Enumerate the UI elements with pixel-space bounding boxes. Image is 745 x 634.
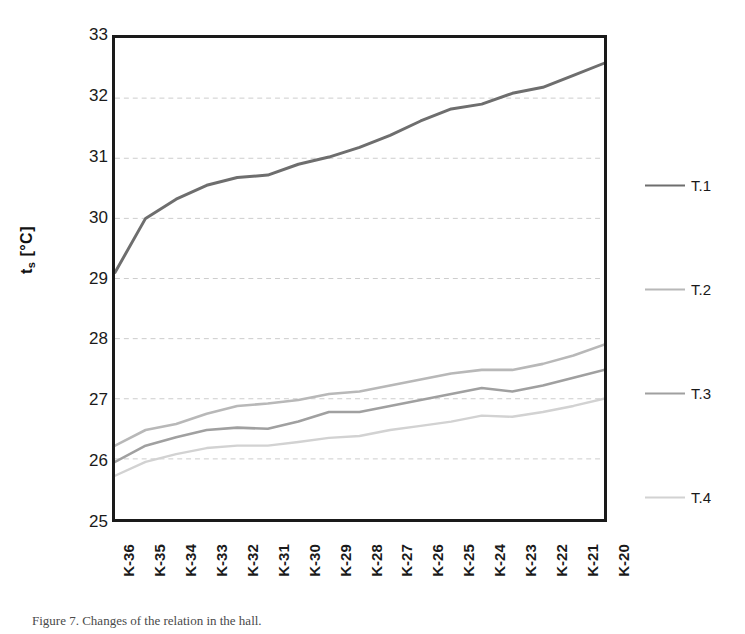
figure-caption: Figure 7. Changes of the relation in the… — [32, 612, 722, 630]
x-axis-tick-label: K-21 — [584, 544, 601, 577]
y-axis-title-main: t — [18, 268, 35, 274]
x-axis-tick-label: K-23 — [522, 544, 539, 577]
y-axis-tick-label: 29 — [89, 269, 108, 289]
legend-entry-t-2[interactable]: T.2 — [645, 281, 711, 298]
plot-area — [112, 35, 607, 522]
y-axis-tick-labels: 252627282930313233 — [70, 35, 108, 522]
y-axis-title: ts [°C] — [18, 226, 36, 274]
legend-label: T.3 — [691, 385, 711, 402]
series-line-t-2 — [115, 345, 604, 446]
legend-entry-t-4[interactable]: T.4 — [645, 489, 711, 506]
y-axis-tick-label: 28 — [89, 329, 108, 349]
y-axis-tick-label: 26 — [89, 451, 108, 471]
x-axis-tick-label: K-22 — [553, 544, 570, 577]
x-axis-tick-label: K-26 — [429, 544, 446, 577]
y-axis-tick-label: 31 — [89, 147, 108, 167]
legend-label: T.2 — [691, 281, 711, 298]
y-axis-tick-label: 33 — [89, 25, 108, 45]
x-axis-tick-label: K-31 — [274, 544, 291, 577]
series-line-t-4 — [115, 399, 604, 476]
legend-entry-t-1[interactable]: T.1 — [645, 177, 711, 194]
x-axis-tick-label: K-27 — [398, 544, 415, 577]
y-axis-tick-label: 32 — [89, 86, 108, 106]
y-axis-tick-label: 25 — [89, 512, 108, 532]
legend-entry-t-3[interactable]: T.3 — [645, 385, 711, 402]
x-axis-tick-label: K-35 — [151, 544, 168, 577]
legend-line-icon — [645, 184, 685, 186]
legend-label: T.4 — [691, 489, 711, 506]
y-axis-tick-label: 30 — [89, 208, 108, 228]
plot-canvas — [115, 38, 604, 519]
chart-legend: T.1T.2T.3T.4 — [645, 35, 741, 522]
x-axis-tick-labels: K-36K-35K-34K-33K-32K-31K-30K-29K-28K-27… — [112, 528, 607, 590]
x-axis-tick-label: K-20 — [615, 544, 632, 577]
x-axis-tick-label: K-33 — [213, 544, 230, 577]
y-axis-tick-label: 27 — [89, 390, 108, 410]
legend-line-icon — [645, 288, 685, 290]
legend-line-icon — [645, 392, 685, 394]
x-axis-tick-label: K-30 — [305, 544, 322, 577]
legend-line-icon — [645, 496, 685, 498]
x-axis-tick-label: K-25 — [460, 544, 477, 577]
y-axis-title-sub: s — [25, 262, 37, 269]
x-axis-tick-label: K-34 — [182, 544, 199, 577]
x-axis-tick-label: K-29 — [336, 544, 353, 577]
series-line-t-3 — [115, 370, 604, 462]
x-axis-tick-label: K-24 — [491, 544, 508, 577]
x-axis-tick-label: K-32 — [244, 544, 261, 577]
series-line-t-1 — [115, 63, 604, 272]
legend-label: T.1 — [691, 177, 711, 194]
y-axis-title-unit: [°C] — [18, 226, 35, 262]
x-axis-tick-label: K-28 — [367, 544, 384, 577]
x-axis-tick-label: K-36 — [120, 544, 137, 577]
figure-root: ts [°C] 252627282930313233 K-36K-35K-34K… — [0, 0, 745, 634]
